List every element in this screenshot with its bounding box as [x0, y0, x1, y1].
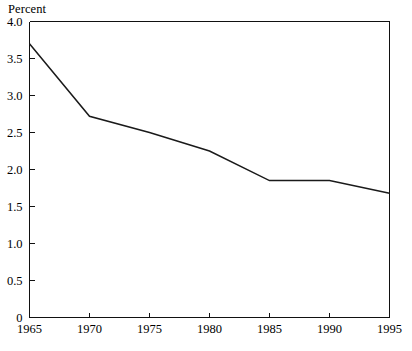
x-tick-label: 1995: [377, 322, 402, 336]
x-tick-label: 1980: [197, 322, 222, 336]
y-tick-label: 3.5: [7, 52, 23, 66]
x-tick-label: 1990: [317, 322, 342, 336]
plot-area: 00.51.01.52.02.53.03.54.0 19651970197519…: [0, 0, 412, 351]
y-tick-label: 2.5: [7, 126, 23, 140]
data-series-line: [30, 44, 390, 193]
y-tick-label: 0.5: [7, 274, 23, 288]
y-tick-label: 1.5: [7, 200, 23, 214]
y-tick-label: 2.0: [7, 163, 23, 177]
x-axis-tick-marks: [90, 313, 330, 318]
y-tick-label: 4.0: [7, 15, 23, 29]
x-tick-label: 1975: [137, 322, 162, 336]
x-tick-label: 1985: [257, 322, 282, 336]
y-axis-tick-labels: 00.51.01.52.02.53.03.54.0: [7, 15, 23, 325]
y-axis-tick-marks: [30, 22, 35, 318]
x-tick-label: 1970: [77, 322, 102, 336]
x-axis-tick-labels: 1965197019751980198519901995: [17, 322, 402, 336]
x-tick-label: 1965: [17, 322, 42, 336]
y-tick-label: 1.0: [7, 237, 23, 251]
y-tick-label: 3.0: [7, 89, 23, 103]
line-chart-figure: Percent 00.51.01.52.02.53.03.54.0 196519…: [0, 0, 412, 351]
